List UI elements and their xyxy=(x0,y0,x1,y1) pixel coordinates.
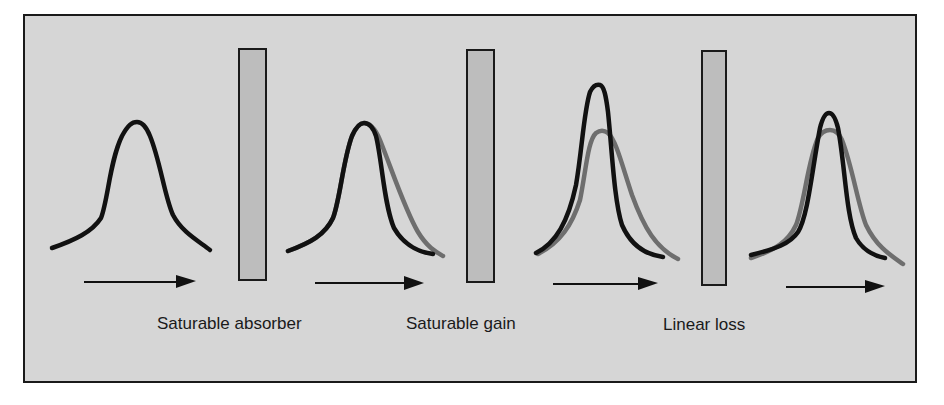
linear-loss-element xyxy=(702,51,726,285)
saturable-gain-element xyxy=(467,50,494,282)
pulse-shaping-diagram: Saturable absorber Saturable gain Linear… xyxy=(0,0,944,405)
linear-loss-label: Linear loss xyxy=(663,315,745,334)
saturable-gain-label: Saturable gain xyxy=(406,314,516,333)
saturable-absorber-element xyxy=(239,49,266,280)
saturable-absorber-label: Saturable absorber xyxy=(157,314,302,333)
